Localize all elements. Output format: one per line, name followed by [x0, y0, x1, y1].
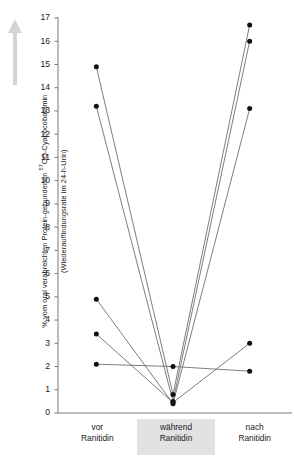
x-category-waehrend-line2: Ranitidin: [137, 433, 216, 444]
y-tick-label-7: 7: [34, 246, 50, 255]
y-tick-label-17: 17: [34, 13, 50, 22]
data-point: [247, 369, 252, 374]
y-tick-label-2: 2: [34, 362, 50, 371]
x-category-waehrend: während Ranitidin: [137, 419, 216, 455]
y-tick-label-13: 13: [34, 106, 50, 115]
y-tick-label-11: 11: [34, 153, 50, 162]
data-point: [171, 400, 176, 405]
y-tick-label-14: 14: [34, 83, 50, 92]
data-point: [94, 297, 99, 302]
y-tick-label-12: 12: [34, 130, 50, 139]
data-point: [171, 364, 176, 369]
series-line-3: [96, 109, 249, 404]
data-point: [247, 39, 252, 44]
y-tick-label-5: 5: [34, 292, 50, 301]
y-tick-label-15: 15: [34, 60, 50, 69]
data-point: [94, 104, 99, 109]
x-category-vor: vor Ranitidin: [58, 419, 137, 455]
data-point: [171, 392, 176, 397]
y-tick-label-10: 10: [34, 176, 50, 185]
x-category-nach-line1: nach: [246, 422, 264, 432]
y-tick-label-6: 6: [34, 269, 50, 278]
y-tick-label-16: 16: [34, 37, 50, 46]
series-line-1: [96, 25, 249, 394]
chart-figure: % vom oral verabreichten Protein-gebunde…: [0, 0, 294, 459]
y-tick-label-0: 0: [34, 408, 50, 417]
y-tick-label-9: 9: [34, 199, 50, 208]
data-point: [94, 64, 99, 69]
y-tick-label-4: 4: [34, 315, 50, 324]
x-category-vor-line1: vor: [92, 422, 104, 432]
x-category-nach-line2: Ranitidin: [215, 433, 294, 444]
data-point: [94, 362, 99, 367]
y-tick-label-3: 3: [34, 339, 50, 348]
data-point: [247, 106, 252, 111]
y-tick-label-1: 1: [34, 385, 50, 394]
x-category-waehrend-line1: während: [160, 422, 192, 432]
y-tick-label-8: 8: [34, 223, 50, 232]
data-point: [247, 341, 252, 346]
x-category-vor-line2: Ranitidin: [58, 433, 137, 444]
x-category-nach: nach Ranitidin: [215, 419, 294, 455]
x-axis-categories: vor Ranitidin während Ranitidin nach Ran…: [58, 419, 294, 455]
series-line-2: [96, 41, 249, 401]
data-point: [247, 22, 252, 27]
data-point: [94, 332, 99, 337]
